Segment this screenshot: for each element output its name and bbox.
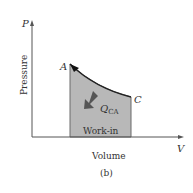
y-axis-arrow-icon: [30, 20, 34, 26]
heat-label-sub: CA: [108, 108, 119, 116]
point-c-label: C: [134, 94, 142, 105]
pv-diagram: P Pressure V Volume A C QCA Work-in (b): [0, 0, 193, 193]
x-axis-symbol: V: [177, 143, 186, 154]
x-axis-label: Volume: [91, 151, 126, 161]
x-axis-arrow-icon: [178, 135, 184, 139]
y-axis-symbol: P: [21, 18, 29, 29]
heat-label-main: Q: [100, 103, 108, 114]
point-a-label: A: [59, 61, 67, 72]
region-label: Work-in: [83, 126, 119, 136]
y-axis-label: Pressure: [19, 55, 29, 95]
figure-caption: (b): [100, 168, 113, 178]
